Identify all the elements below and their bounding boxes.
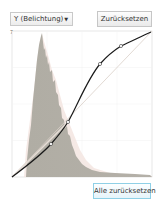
curve-control-point[interactable] [119, 44, 122, 47]
curve-control-point[interactable] [49, 142, 52, 145]
curve-control-point[interactable] [66, 120, 69, 123]
curve-control-point[interactable] [98, 62, 101, 65]
tone-curve-graph[interactable] [0, 0, 162, 207]
reset-all-button[interactable]: Alle zurücksetzen [93, 183, 151, 199]
